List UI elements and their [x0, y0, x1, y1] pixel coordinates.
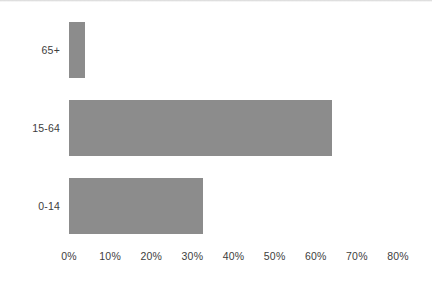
y-tick-label-65plus: 65+: [0, 44, 60, 56]
bar-chart: Age 65+ 15-64 0-14 0% 10% 20% 30% 40% 50…: [0, 0, 432, 292]
y-tick-label-0-14: 0-14: [0, 200, 60, 212]
bar-row-0-14: [69, 178, 203, 234]
top-divider: [0, 0, 432, 2]
bar-15-64: [69, 100, 332, 156]
bar-row-65plus: [69, 22, 85, 78]
x-axis: 0% 10% 20% 30% 40% 50% 60% 70% 80%: [69, 250, 398, 270]
y-tick-label-15-64: 15-64: [0, 122, 60, 134]
plot-area: [69, 18, 398, 240]
bar-0-14: [69, 178, 203, 234]
bar-65plus: [69, 22, 85, 78]
x-tick-label-80: 80%: [374, 250, 422, 262]
bar-row-15-64: [69, 100, 332, 156]
